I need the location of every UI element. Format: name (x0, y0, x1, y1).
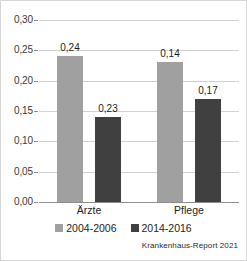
category-label: Pflege (139, 205, 239, 216)
y-tick-mark (34, 81, 38, 82)
y-tick-label: 0,30 (1, 15, 33, 25)
plot-area: 0,000,050,100,150,200,250,300,240,230,14… (39, 20, 239, 202)
bar-value-label: 0,23 (88, 104, 128, 114)
y-tick-mark (34, 111, 38, 112)
gridline (39, 20, 239, 21)
legend-label: 2004-2006 (66, 223, 116, 234)
y-tick-label: 0,25 (1, 45, 33, 55)
category-label: Ärzte (39, 205, 139, 216)
y-tick-mark (34, 20, 38, 21)
bar (195, 99, 221, 202)
chart-legend: 2004-20062014-2016 (1, 223, 246, 234)
bar-value-label: 0,14 (150, 49, 190, 59)
y-tick-label: 0,15 (1, 106, 33, 116)
y-tick-mark (34, 50, 38, 51)
bar (95, 117, 121, 202)
legend-item: 2004-2006 (55, 223, 116, 234)
legend-swatch (55, 224, 63, 232)
y-tick-label: 0,00 (1, 197, 33, 207)
y-tick-mark (34, 202, 38, 203)
y-tick-label: 0,20 (1, 76, 33, 86)
bar-value-label: 0,17 (188, 86, 228, 96)
legend-item: 2014-2016 (131, 223, 192, 234)
chart-figure: 0,000,050,100,150,200,250,300,240,230,14… (0, 0, 247, 261)
axis-baseline (39, 202, 239, 203)
legend-label: 2014-2016 (142, 223, 192, 234)
y-tick-mark (34, 172, 38, 173)
bar (157, 62, 183, 202)
source-note: Krankenhaus-Report 2021 (142, 241, 238, 250)
bar (57, 56, 83, 202)
y-tick-label: 0,10 (1, 136, 33, 146)
legend-swatch (131, 224, 139, 232)
bar-value-label: 0,24 (50, 43, 90, 53)
y-tick-mark (34, 141, 38, 142)
y-tick-label: 0,05 (1, 167, 33, 177)
